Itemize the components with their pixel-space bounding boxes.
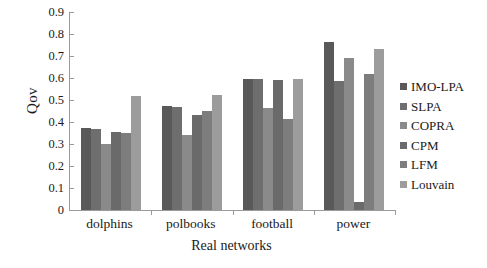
- bar: [344, 58, 354, 210]
- y-tick-label: 0.1: [48, 182, 64, 195]
- legend-label: CPM: [411, 139, 438, 152]
- legend-swatch-icon: [400, 103, 407, 110]
- bar: [374, 49, 384, 210]
- y-tick-label: 0: [58, 204, 64, 217]
- x-tick-mark: [233, 210, 234, 215]
- bar: [273, 80, 283, 210]
- bar: [101, 144, 111, 210]
- y-tick-label: 0.5: [48, 94, 64, 107]
- bar: [364, 74, 374, 210]
- bar-group: [233, 12, 314, 210]
- bar-group: [151, 12, 232, 210]
- legend: IMO-LPASLPACOPRACPMLFMLouvain: [400, 77, 464, 194]
- bar: [253, 79, 263, 210]
- x-tick-mark: [314, 210, 315, 215]
- x-category-label: football: [232, 216, 313, 232]
- y-tick-label: 0.9: [48, 6, 64, 19]
- bar: [131, 96, 141, 210]
- bar: [202, 111, 212, 210]
- legend-swatch-icon: [400, 122, 407, 129]
- y-axis-title: Qov: [24, 61, 41, 141]
- x-tick-mark: [151, 210, 152, 215]
- y-tick-label: 0.8: [48, 28, 64, 41]
- bar: [172, 107, 182, 210]
- bar: [354, 202, 364, 210]
- x-category-label: power: [313, 216, 394, 232]
- x-axis-category-labels: dolphinspolbooksfootballpower: [69, 216, 394, 232]
- bar-groups: [70, 12, 395, 210]
- legend-label: IMO-LPA: [411, 80, 464, 93]
- plot-area: 00.10.20.30.40.50.60.70.80.9: [69, 12, 395, 211]
- bar-group: [314, 12, 395, 210]
- legend-label: SLPA: [411, 100, 442, 113]
- legend-swatch-icon: [400, 181, 407, 188]
- bar: [334, 81, 344, 210]
- y-tick-label: 0.4: [48, 116, 64, 129]
- legend-item[interactable]: SLPA: [400, 97, 464, 117]
- legend-item[interactable]: IMO-LPA: [400, 77, 464, 97]
- bar: [283, 119, 293, 210]
- legend-label: Louvain: [411, 178, 454, 191]
- bar-group: [70, 12, 151, 210]
- x-tick-mark: [395, 210, 396, 215]
- legend-item[interactable]: CPM: [400, 136, 464, 156]
- bar: [212, 95, 222, 210]
- legend-label: LFM: [411, 158, 438, 171]
- y-tick-label: 0.7: [48, 50, 64, 63]
- bar: [111, 132, 121, 210]
- bar: [121, 133, 131, 210]
- x-axis-title: Real networks: [69, 238, 394, 254]
- x-category-label: dolphins: [69, 216, 150, 232]
- bar: [324, 42, 334, 210]
- bar: [81, 128, 91, 211]
- y-tick-label: 0.3: [48, 138, 64, 151]
- legend-swatch-icon: [400, 83, 407, 90]
- y-tick-label: 0.6: [48, 72, 64, 85]
- bar: [162, 106, 172, 210]
- bar: [192, 115, 202, 210]
- legend-item[interactable]: Louvain: [400, 175, 464, 195]
- legend-swatch-icon: [400, 161, 407, 168]
- bar: [293, 79, 303, 210]
- legend-swatch-icon: [400, 142, 407, 149]
- x-category-label: polbooks: [150, 216, 231, 232]
- bar: [243, 79, 253, 210]
- bar: [91, 129, 101, 210]
- y-tick-mark: [70, 210, 74, 211]
- legend-item[interactable]: COPRA: [400, 116, 464, 136]
- legend-label: COPRA: [411, 119, 454, 132]
- bar: [182, 135, 192, 210]
- bar: [263, 108, 273, 210]
- legend-item[interactable]: LFM: [400, 155, 464, 175]
- y-tick-label: 0.2: [48, 160, 64, 173]
- qov-bar-chart: Qov 00.10.20.30.40.50.60.70.80.9 dolphin…: [0, 0, 487, 268]
